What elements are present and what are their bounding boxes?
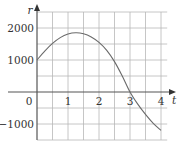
x-tick-label: 4 — [158, 95, 165, 107]
x-axis-label: t — [172, 94, 177, 106]
x-tick-label: 1 — [65, 95, 72, 107]
x-tick-label: 2 — [96, 95, 103, 107]
x-tick-label: 0 — [26, 95, 33, 107]
x-tick-label: 3 — [127, 95, 134, 107]
line-chart: 0123420001000−1000tr — [0, 0, 180, 146]
y-tick-label: 1000 — [7, 54, 34, 66]
y-axis-label: r — [27, 4, 33, 16]
grid-lines — [37, 12, 167, 140]
y-tick-label: −1000 — [0, 118, 34, 130]
tick-labels: 0123420001000−1000tr — [0, 4, 177, 130]
y-tick-label: 2000 — [7, 22, 34, 34]
y-axis-arrow-icon — [34, 4, 40, 11]
